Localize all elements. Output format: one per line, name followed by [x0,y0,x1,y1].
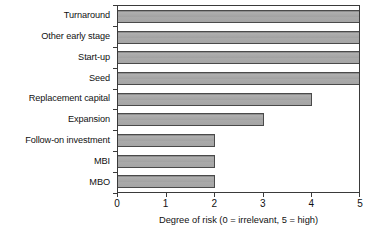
bar-follow-on-investment [118,134,215,147]
bar-row-start-up [118,47,359,68]
bar-other-early-stage [118,31,359,44]
x-axis-tick [214,193,215,197]
bar-expansion [118,113,264,126]
y-axis-label-start-up: Start-up [0,47,113,68]
y-axis-label-mbi: MBI [0,151,113,172]
bar-row-expansion [118,109,359,130]
x-axis-tick [311,193,312,197]
x-axis-tick-label: 5 [357,198,363,210]
bar-mbo [118,175,215,188]
y-axis-label-turnaround: Turnaround [0,5,113,26]
y-axis-category-labels: Turnaround Other early stage Start-up Se… [0,5,113,193]
x-axis-tick [359,193,360,197]
x-axis-tick-label: 0 [114,198,120,210]
y-axis-label-seed: Seed [0,68,113,89]
y-axis-label-other-early-stage: Other early stage [0,26,113,47]
bar-row-other-early-stage [118,27,359,48]
y-axis-label-replacement-capital: Replacement capital [0,89,113,110]
x-axis-tick-label: 2 [211,198,217,210]
bar-start-up [118,51,359,64]
bar-row-turnaround [118,6,359,27]
bar-mbi [118,155,215,168]
bar-series [118,6,359,192]
bar-row-mbi [118,151,359,172]
bar-row-replacement-capital [118,89,359,110]
x-axis-tick [263,193,264,197]
bar-row-follow-on-investment [118,130,359,151]
plot-area [117,5,360,193]
x-axis-tick-labels: 012345 [117,198,360,212]
bar-turnaround [118,10,359,23]
x-axis-tick-label: 4 [309,198,315,210]
y-axis-label-expansion: Expansion [0,109,113,130]
x-axis-tick-label: 3 [260,198,266,210]
bar-chart: Turnaround Other early stage Start-up Se… [0,0,378,238]
x-axis-title: Degree of risk (0 = irrelevant, 5 = high… [117,214,360,226]
x-axis-tick-label: 1 [163,198,169,210]
y-axis-label-mbo: MBO [0,172,113,193]
bar-replacement-capital [118,93,312,106]
bar-row-seed [118,68,359,89]
y-axis-label-follow-on-investment: Follow-on investment [0,130,113,151]
x-axis-tick [166,193,167,197]
bar-seed [118,72,359,85]
x-axis-tick [117,193,118,197]
bar-row-mbo [118,171,359,192]
